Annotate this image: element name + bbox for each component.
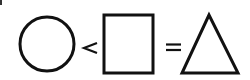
shape-equation-diagram: < = [0, 0, 250, 80]
less-than-operator [84, 43, 97, 53]
cropped-label-fragment [0, 0, 2, 5]
triangle-shape [182, 15, 238, 73]
equals-operator [166, 45, 181, 51]
circle-shape [20, 17, 74, 71]
square-shape [104, 15, 153, 73]
